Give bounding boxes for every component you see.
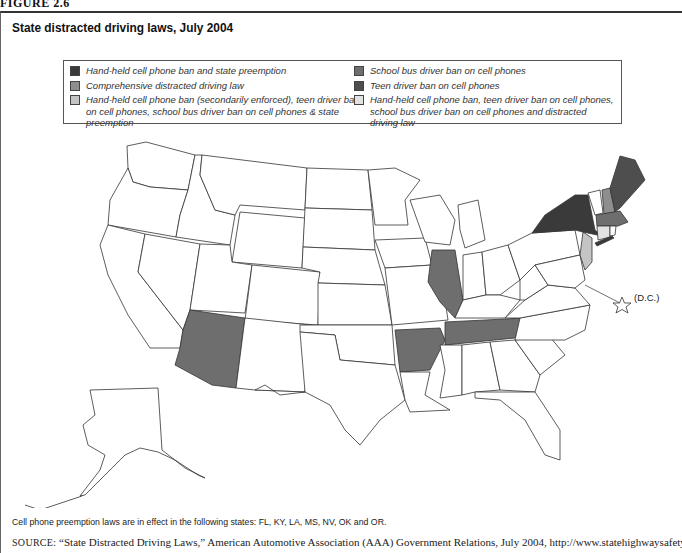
legend-item: School bus driver ban on cell phones	[354, 65, 616, 77]
state-AK	[80, 388, 205, 496]
source-text: “State Distracted Driving Laws,” America…	[56, 536, 682, 548]
state-MT	[200, 155, 307, 215]
state-AZ	[175, 310, 245, 388]
state-MS	[440, 345, 462, 398]
dc-star-icon	[613, 297, 631, 313]
legend: Hand-held cell phone ban and state preem…	[63, 60, 622, 124]
figure-title: State distracted driving laws, July 2004	[12, 21, 233, 35]
legend-swatch-handheld-preemption	[70, 66, 80, 76]
legend-swatch-school-bus	[354, 66, 364, 76]
state-RI	[610, 226, 616, 236]
legend-label: Comprehensive distracted driving law	[86, 80, 244, 92]
legend-swatch-handheld-secondary	[70, 95, 80, 105]
us-map: (D.C.)	[0, 128, 682, 508]
legend-item: Hand-held cell phone ban (secondarily en…	[70, 94, 360, 129]
state-KS	[318, 283, 392, 325]
legend-label: Hand-held cell phone ban, teen driver ba…	[370, 94, 616, 129]
dc-label: (D.C.)	[634, 292, 659, 303]
legend-item: Hand-held cell phone ban and state preem…	[70, 65, 360, 77]
legend-label: Hand-held cell phone ban (secondarily en…	[86, 94, 360, 129]
state-WA	[127, 142, 195, 190]
legend-swatch-teen-driver	[354, 81, 364, 91]
state-WI	[410, 195, 455, 245]
source-prefix: SOURCE:	[12, 537, 56, 548]
state-MN	[368, 168, 420, 225]
legend-label: School bus driver ban on cell phones	[370, 65, 526, 77]
state-AR	[395, 328, 445, 372]
legend-label: Teen driver ban on cell phones	[370, 80, 500, 92]
state-NM	[236, 318, 310, 392]
dc-leader-line	[585, 285, 620, 303]
state-HI	[217, 421, 256, 444]
state-ME	[610, 156, 645, 212]
state-IA	[375, 238, 432, 268]
legend-swatch-comprehensive	[70, 81, 80, 91]
legend-item: Teen driver ban on cell phones	[354, 80, 616, 92]
aleutian-islands	[25, 496, 82, 508]
state-MI	[458, 200, 485, 248]
state-ND	[305, 168, 372, 210]
state-SD	[303, 208, 375, 250]
legend-item: Hand-held cell phone ban, teen driver ba…	[354, 94, 616, 129]
state-WY	[232, 212, 305, 268]
state-CO	[245, 265, 320, 325]
preemption-note: Cell phone preemption laws are in effect…	[12, 516, 386, 527]
state-FL	[475, 392, 560, 460]
figure-label: FIGURE 2.6	[0, 0, 70, 11]
source-citation: SOURCE: “State Distracted Driving Laws,”…	[12, 536, 682, 548]
legend-item: Comprehensive distracted driving law	[70, 80, 360, 92]
legend-label: Hand-held cell phone ban and state preem…	[86, 65, 286, 77]
legend-swatch-combined-all	[354, 95, 364, 105]
